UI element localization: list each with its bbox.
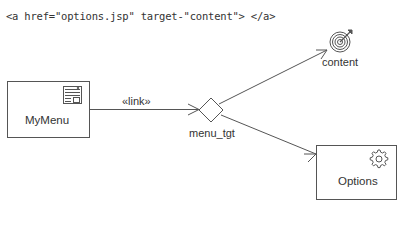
menu-tgt-label: menu_tgt: [189, 127, 235, 139]
edge-content: [219, 50, 327, 104]
mymenu-label[interactable]: MyMenu: [25, 114, 69, 126]
content-label[interactable]: content: [322, 56, 358, 68]
target-icon: [330, 30, 352, 52]
edge-options: [221, 115, 316, 154]
menu-tgt-diamond: [199, 98, 223, 122]
link-stereotype-label: «link»: [122, 95, 151, 107]
options-box: [317, 146, 397, 200]
options-label[interactable]: Options: [338, 175, 378, 187]
